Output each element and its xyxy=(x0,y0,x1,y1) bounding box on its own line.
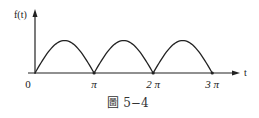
x-tick-label: 0 xyxy=(25,78,31,90)
curve-arch-1 xyxy=(35,41,94,73)
x-tick-label: 3 π xyxy=(204,78,219,90)
curve-arch-3 xyxy=(153,41,212,73)
x-tick-mark xyxy=(92,71,95,74)
x-tick-mark xyxy=(211,71,214,74)
x-axis-label: t xyxy=(244,67,247,78)
x-axis-arrow-icon xyxy=(232,71,240,76)
y-axis-arrow-icon xyxy=(33,9,38,17)
y-axis-label: f(t) xyxy=(14,9,27,21)
x-tick-label: π xyxy=(91,78,97,90)
curve-arch-2 xyxy=(94,41,153,73)
chart: f(t) t 0π2 π3 π 圖 5−4 xyxy=(0,0,259,118)
figure-caption: 圖 5−4 xyxy=(107,96,149,110)
x-tick-label: 2 π xyxy=(146,78,160,90)
x-tick-mark xyxy=(152,71,155,74)
